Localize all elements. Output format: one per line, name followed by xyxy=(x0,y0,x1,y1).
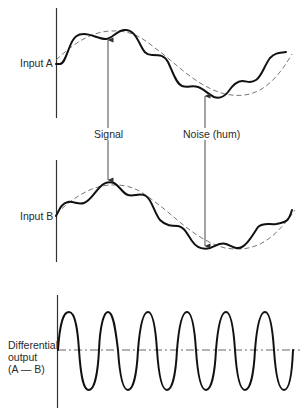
differential-label-line1: Differential xyxy=(8,339,58,351)
signal-label: Signal xyxy=(94,128,123,140)
noise-label: Noise (hum) xyxy=(183,128,240,140)
differential-label-line2: output xyxy=(8,351,37,363)
differential-waveform xyxy=(58,312,293,390)
input-b-label: Input B xyxy=(20,210,53,222)
input-a-waveform xyxy=(56,30,286,98)
input-b-waveform xyxy=(56,182,292,248)
differential-label-line3: (A — B) xyxy=(8,363,45,375)
input-b-signal-dashed xyxy=(56,185,295,249)
input-a-signal-dashed xyxy=(56,31,292,96)
input-a-label: Input A xyxy=(20,57,53,69)
